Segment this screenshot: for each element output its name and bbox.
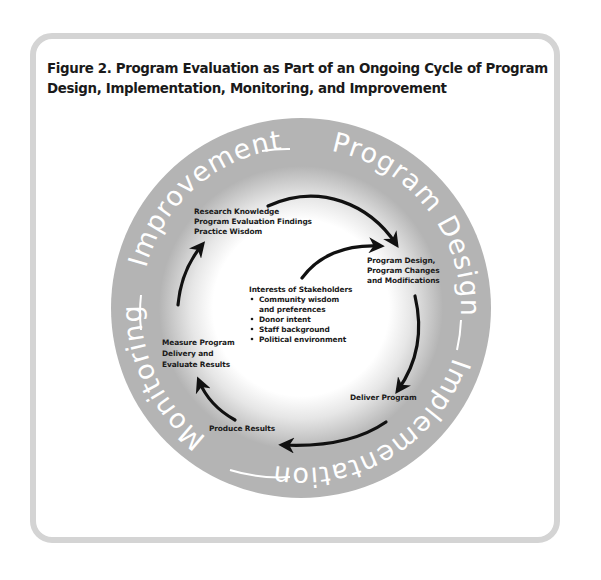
ring-separator-left: [140, 295, 141, 330]
stakeholder-item: Donor intent: [259, 315, 311, 324]
stakeholders-heading: Interests of Stakeholders: [249, 285, 353, 294]
stakeholder-item: Staff background: [259, 325, 330, 334]
produce-label: Produce Results: [209, 424, 276, 433]
bullet-icon: [251, 298, 254, 301]
bullet-icon: [251, 338, 254, 341]
design-label: Program Design, Program Changes and Modi…: [367, 256, 442, 285]
stakeholder-item: Political environment: [259, 335, 347, 344]
stakeholder-item: Community wisdom: [259, 295, 340, 304]
deliver-label: Deliver Program: [350, 393, 417, 402]
cycle-diagram: Program Design Implementation Monitoring…: [0, 0, 601, 580]
bullet-icon: [251, 328, 254, 331]
stakeholder-item-cont: and preferences: [259, 305, 326, 314]
bullet-icon: [251, 318, 254, 321]
